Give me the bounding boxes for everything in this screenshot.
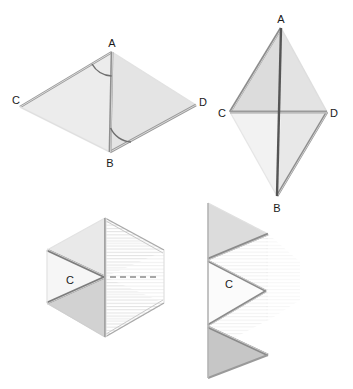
label-c-bottom-left: C [66, 274, 74, 286]
label-c-top-right: C [218, 107, 226, 119]
label-c-bottom-right: C [225, 278, 233, 290]
canvas-background [0, 0, 353, 389]
label-d-top-right: D [330, 107, 338, 119]
label-c-top-left: C [12, 94, 20, 106]
label-a-top-right: A [277, 13, 285, 25]
label-d-top-left: D [199, 96, 207, 108]
label-a-top-left: A [108, 37, 116, 49]
geometry-figure-canvas: A B C D A B C D [0, 0, 353, 389]
label-b-top-left: B [106, 157, 113, 169]
label-b-top-right: B [273, 202, 280, 214]
